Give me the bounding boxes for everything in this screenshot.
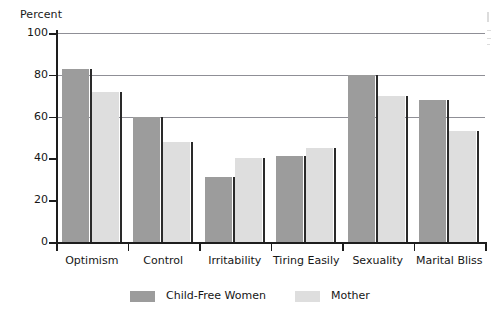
bar-right-edge bbox=[191, 142, 193, 242]
y-tick-label: 100 bbox=[4, 27, 48, 38]
bar-body bbox=[92, 92, 119, 242]
bar-tiring-easily-child-free-women bbox=[276, 156, 306, 242]
bar-body bbox=[306, 148, 333, 242]
x-tick-mark bbox=[128, 243, 130, 251]
x-tick-label: Marital Bliss bbox=[414, 254, 486, 267]
bar-optimism-child-free-women bbox=[62, 69, 92, 242]
x-tick-mark bbox=[414, 243, 416, 251]
legend-item-child-free-women: Child-Free Women bbox=[130, 288, 266, 304]
bar-body bbox=[378, 96, 405, 242]
page-margin-artifact bbox=[487, 38, 491, 39]
bar-right-edge bbox=[334, 148, 336, 242]
page-margin-artifact bbox=[487, 12, 489, 22]
bar-chart-figure: Percent 020406080100 OptimismControlIrri… bbox=[0, 0, 494, 327]
bar-right-edge bbox=[263, 158, 265, 242]
x-tick-label: Optimism bbox=[56, 254, 128, 267]
legend-label: Child-Free Women bbox=[166, 290, 266, 302]
bar-body bbox=[449, 131, 476, 242]
bar-right-edge bbox=[477, 131, 479, 242]
bar-body bbox=[235, 158, 262, 242]
bars-layer bbox=[56, 33, 485, 242]
bar-body bbox=[205, 177, 232, 242]
bar-marital-bliss-child-free-women bbox=[419, 100, 449, 242]
x-tick-mark bbox=[485, 243, 487, 251]
y-tick-label: 40 bbox=[4, 152, 48, 163]
bar-sexuality-mother bbox=[378, 96, 408, 242]
y-tick-label: 20 bbox=[4, 194, 48, 205]
bar-tiring-easily-mother bbox=[306, 148, 336, 242]
legend-swatch bbox=[295, 291, 320, 302]
legend-item-mother: Mother bbox=[295, 288, 370, 304]
y-axis-title: Percent bbox=[20, 8, 62, 21]
y-tick-label: 60 bbox=[4, 111, 48, 122]
bar-body bbox=[163, 142, 190, 242]
bar-sexuality-child-free-women bbox=[348, 75, 378, 242]
bar-body bbox=[419, 100, 446, 242]
x-tick-label: Sexuality bbox=[342, 254, 414, 267]
bar-irritability-mother bbox=[235, 158, 265, 242]
x-tick-label: Tiring Easily bbox=[271, 254, 343, 267]
bar-control-child-free-women bbox=[133, 117, 163, 242]
bar-marital-bliss-mother bbox=[449, 131, 479, 242]
x-tick-mark bbox=[271, 243, 273, 251]
x-tick-label: Irritability bbox=[199, 254, 271, 267]
bar-right-edge bbox=[120, 92, 122, 242]
legend-label: Mother bbox=[331, 290, 370, 302]
y-tick-label: 80 bbox=[4, 69, 48, 80]
bar-control-mother bbox=[163, 142, 193, 242]
x-tick-mark bbox=[199, 243, 201, 251]
bar-irritability-child-free-women bbox=[205, 177, 235, 242]
chart-legend: Child-Free WomenMother bbox=[0, 288, 494, 308]
x-tick-mark bbox=[56, 243, 58, 251]
bar-body bbox=[62, 69, 89, 242]
x-tick-mark bbox=[342, 243, 344, 251]
y-tick-label: 0 bbox=[4, 236, 48, 247]
page-margin-artifact bbox=[487, 44, 490, 45]
bar-right-edge bbox=[406, 96, 408, 242]
x-tick-label: Control bbox=[128, 254, 200, 267]
bar-body bbox=[276, 156, 303, 242]
page-margin-artifact bbox=[487, 30, 491, 31]
bar-optimism-mother bbox=[92, 92, 122, 242]
bar-body bbox=[133, 117, 160, 242]
bar-body bbox=[348, 75, 375, 242]
legend-swatch bbox=[130, 291, 155, 302]
